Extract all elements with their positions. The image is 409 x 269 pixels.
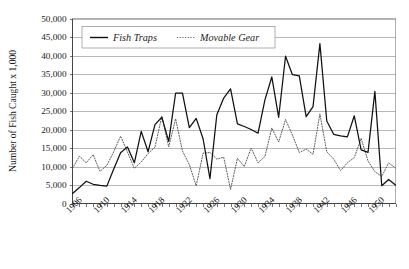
series-line-fish-traps [73, 44, 396, 194]
x-axis-tick-labels: 1906191019141918192219261930193419381942… [64, 195, 387, 215]
x-tick-label: 1926 [201, 195, 221, 215]
series-layer [73, 44, 396, 194]
x-tick-label: 1946 [339, 195, 359, 215]
chart-legend: Fish Traps Movable Gear [82, 27, 275, 49]
x-tick-label: 1942 [311, 195, 331, 215]
y-tick-label: 15,000 [41, 143, 67, 153]
y-axis-title: Number of Fish Caught x 1,000 [7, 50, 18, 172]
legend-label-fish-traps: Fish Traps [112, 32, 157, 43]
y-tick-label: 45,000 [41, 32, 67, 42]
x-tick-label: 1950 [366, 195, 386, 215]
line-chart: 05,00010,00015,00020,00025,00030,00035,0… [0, 0, 409, 269]
y-tick-label: 30,000 [41, 88, 67, 98]
x-tick-label: 1906 [64, 195, 84, 215]
x-tick-label: 1922 [174, 195, 194, 215]
chart-figure: 05,00010,00015,00020,00025,00030,00035,0… [0, 0, 409, 269]
legend-label-movable-gear: Movable Gear [199, 32, 259, 43]
y-tick-label: 10,000 [41, 162, 67, 172]
y-tick-label: 25,000 [41, 106, 67, 116]
x-tick-label: 1934 [256, 195, 276, 215]
x-tick-label: 1930 [229, 195, 249, 215]
y-tick-label: 40,000 [41, 51, 67, 61]
y-tick-label: 35,000 [41, 69, 67, 79]
x-tick-label: 1938 [284, 195, 304, 215]
y-tick-label: 20,000 [41, 125, 67, 135]
y-tick-label: 5,000 [46, 180, 67, 190]
x-tick-label: 1910 [91, 195, 111, 215]
y-axis-tick-labels: 05,00010,00015,00020,00025,00030,00035,0… [41, 14, 67, 209]
x-tick-label: 1918 [146, 195, 166, 215]
x-tick-label: 1914 [119, 195, 139, 215]
y-tick-label: 50,000 [41, 14, 67, 24]
